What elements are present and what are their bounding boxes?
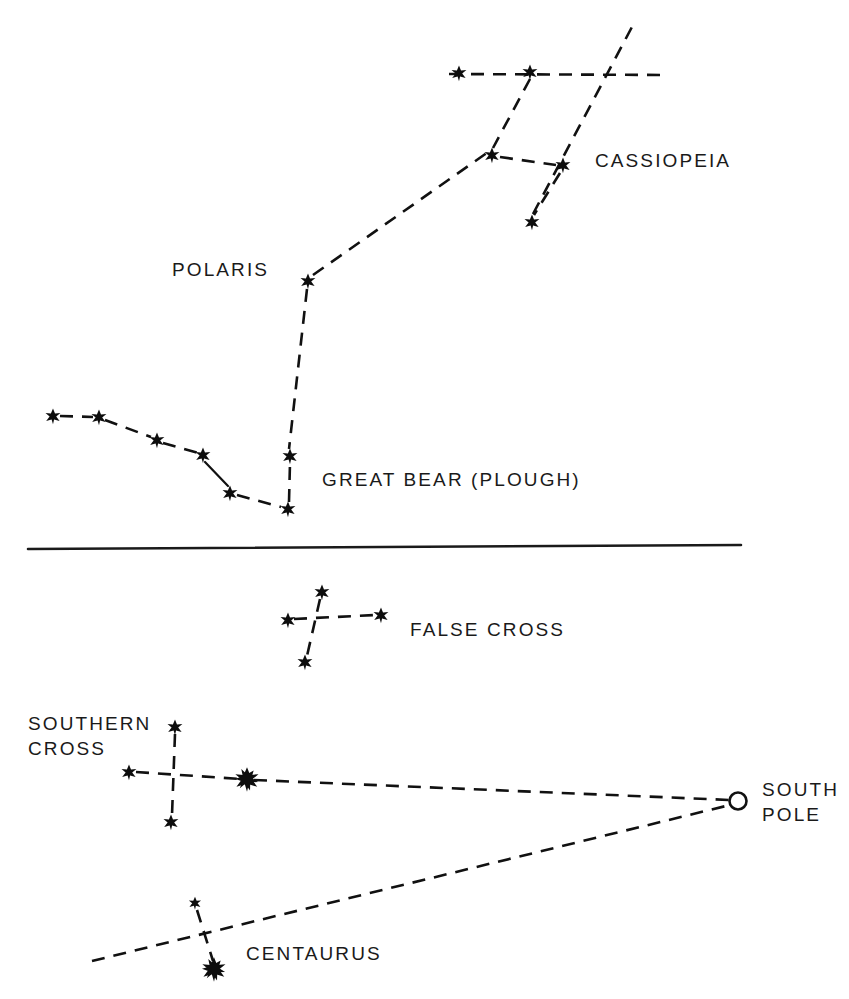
star-ub-d — [196, 447, 211, 463]
star-fc-right — [374, 607, 389, 623]
label-south-pole-2: POLE — [762, 804, 821, 825]
horizontal-divider — [28, 545, 741, 549]
constellation-line-sc-horizontal — [136, 772, 241, 779]
star-ub-f — [281, 501, 296, 517]
constellation-line-cas-c-to-d — [500, 157, 556, 165]
label-polaris: POLARIS — [172, 259, 269, 280]
constellation-line-cas-b-to-c — [493, 79, 530, 148]
constellation-line-cas-d-to-e — [534, 173, 560, 215]
label-southern-cross-1: SOUTHERN — [28, 713, 151, 734]
star-ub-e — [223, 485, 238, 501]
constellation-line-fc-vertical — [307, 599, 320, 656]
star-fc-bottom — [298, 654, 313, 670]
star-polaris — [301, 273, 316, 289]
star-cas-e — [525, 214, 540, 230]
constellation-line-pointer-polaris-to-bowl — [289, 289, 307, 449]
constellation-line-ub-b-c — [105, 420, 151, 437]
star-fc-top — [315, 584, 330, 600]
constellation-line-ub-f-g — [289, 463, 290, 502]
constellation-line-ub-e-f — [237, 495, 281, 507]
constellation-line-ub-a-b — [60, 416, 93, 417]
star-sc-bottom — [164, 814, 179, 830]
pole-markers — [730, 793, 747, 810]
constellation-centaurus — [189, 897, 229, 985]
star-ub-a — [46, 408, 61, 424]
star-ub-g — [283, 448, 298, 464]
hemisphere-divider — [28, 545, 741, 549]
constellation-line-cas-e-steep-upper — [533, 25, 633, 214]
constellation-polaris — [301, 273, 316, 289]
star-cas-c — [485, 147, 500, 163]
constellation-line-sc-vertical — [172, 734, 175, 815]
star-cas-b — [523, 64, 538, 80]
star-chart-figure: CASSIOPEIAPOLARISGREAT BEAR (PLOUGH)FALS… — [0, 0, 849, 999]
star-ub-b — [92, 409, 107, 425]
label-centaurus: CENTAURUS — [246, 943, 382, 964]
constellation-cassiopeia — [452, 64, 571, 230]
constellation-line-pointer-cen-to-pole — [92, 805, 730, 961]
label-southern-cross-2: CROSS — [28, 738, 106, 759]
label-cassiopeia: CASSIOPEIA — [595, 150, 731, 171]
star-sc-top — [168, 719, 183, 735]
label-south-pole-1: SOUTH — [762, 779, 839, 800]
constellation-line-pointer-sc-to-pole — [254, 780, 730, 800]
constellation-line-cas-top-line — [449, 74, 668, 75]
south-pole-marker — [730, 793, 747, 810]
star-cen-top — [189, 897, 201, 910]
star-sc-left — [122, 764, 137, 780]
constellation-labels: CASSIOPEIAPOLARISGREAT BEAR (PLOUGH)FALS… — [28, 150, 839, 964]
constellation-line-pointer-polaris-to-cas — [313, 150, 491, 275]
constellation-false-cross — [281, 584, 389, 670]
star-fc-left — [281, 612, 296, 628]
constellation-line-ub-c-d — [163, 443, 198, 453]
constellation-line-ub-d-e — [205, 462, 228, 486]
star-ub-c — [150, 432, 165, 448]
label-great-bear: GREAT BEAR (PLOUGH) — [322, 469, 581, 490]
constellation-line-fc-horizontal — [294, 615, 375, 619]
label-false-cross: FALSE CROSS — [410, 619, 565, 640]
star-markers — [46, 64, 571, 984]
